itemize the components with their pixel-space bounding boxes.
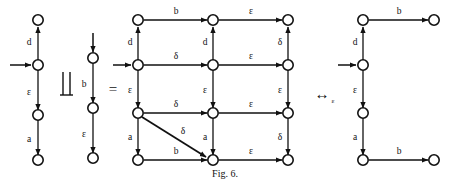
middle-automaton: b ε [82, 33, 99, 163]
state-node [208, 60, 218, 70]
v-label-c1-eps: ε [203, 85, 207, 95]
state-node [88, 53, 98, 63]
state-node [429, 155, 439, 165]
state-node [358, 108, 368, 118]
state-node [358, 60, 368, 70]
figure-6-diagram: d ε a b ε = [0, 0, 450, 183]
state-node [133, 60, 143, 70]
bisim-subscript: ε [332, 97, 335, 105]
edge-label-b-top: b [397, 6, 402, 16]
state-node [283, 15, 293, 25]
edge-label-epsilon: ε [82, 129, 86, 139]
right-automaton: d ε a b b [338, 6, 439, 165]
v-label-c1-d: d [203, 37, 208, 47]
edge-label-a: a [27, 134, 32, 144]
v-label-c1-a: a [203, 132, 208, 142]
state-node [88, 103, 98, 113]
state-node [88, 153, 98, 163]
state-node [208, 108, 218, 118]
state-node [33, 15, 43, 25]
parallel-operator [60, 72, 73, 95]
edge-label-d: d [27, 37, 32, 47]
edge-label-b: b [82, 79, 87, 89]
h-label-r3-c1: ε [249, 146, 253, 156]
h-label-r0-c0: b [174, 6, 179, 16]
v-label-c0-eps: ε [128, 85, 132, 95]
v-label-c0-d: d [128, 37, 133, 47]
edge-label-d: d [353, 37, 358, 47]
state-node [283, 108, 293, 118]
h-label-r2-c0: δ [174, 99, 179, 109]
state-node [429, 15, 439, 25]
left-automaton: d ε a [10, 15, 43, 165]
diagram-canvas: d ε a b ε = [0, 0, 450, 183]
diagonal-label-delta: δ [181, 126, 186, 136]
figure-caption: Fig. 6. [212, 168, 238, 179]
state-node [208, 155, 218, 165]
h-label-r1-c1: ε [249, 51, 253, 61]
v-label-c2-eps: ε [278, 85, 282, 95]
h-label-r0-c1: ε [249, 6, 253, 16]
bisim-arrow-symbol: ↔ [315, 86, 330, 102]
state-node [358, 15, 368, 25]
state-node [283, 60, 293, 70]
state-node [358, 155, 368, 165]
state-node [283, 155, 293, 165]
product-automaton: b ε δ ε δ ε b ε d ε a d ε a δ ε δ δ [113, 6, 293, 165]
h-label-r2-c1: ε [249, 99, 253, 109]
state-node [33, 155, 43, 165]
h-label-r3-c0: b [174, 146, 179, 156]
bisimulation-operator: ↔ ε [315, 86, 335, 105]
edge-label-epsilon: ε [27, 87, 31, 97]
edge-label-epsilon: ε [353, 85, 357, 95]
edge-label-a: a [353, 132, 358, 142]
state-node [133, 15, 143, 25]
h-label-r1-c0: δ [174, 51, 179, 61]
edge-label-b-bottom: b [397, 146, 402, 156]
v-label-c2-delta2: δ [278, 132, 283, 142]
equals-operator: = [109, 81, 117, 97]
state-node [33, 110, 43, 120]
state-node [208, 15, 218, 25]
state-node [133, 108, 143, 118]
state-node [33, 60, 43, 70]
state-node [133, 155, 143, 165]
v-label-c0-a: a [128, 132, 133, 142]
v-label-c2-delta1: δ [278, 37, 283, 47]
